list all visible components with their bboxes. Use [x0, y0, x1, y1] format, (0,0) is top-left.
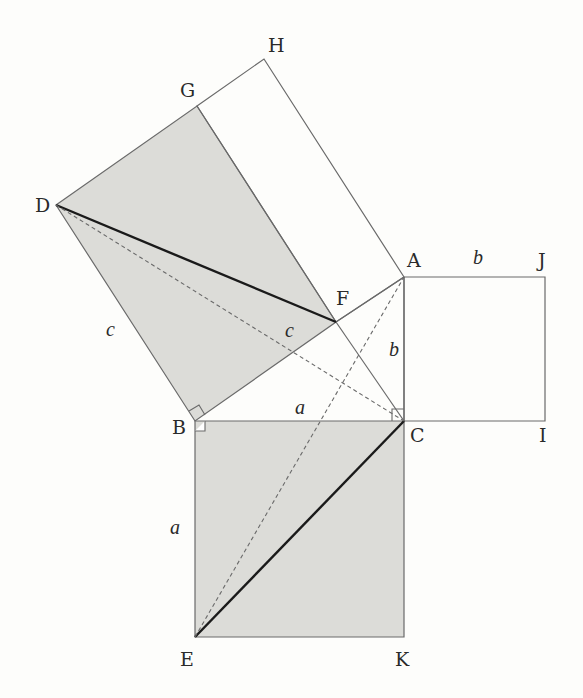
segment-fc	[336, 322, 404, 421]
side-label-c-inner: c	[285, 319, 294, 341]
square-acij	[404, 277, 545, 421]
label-e: E	[180, 648, 194, 670]
label-g: G	[180, 79, 195, 101]
side-label-b-left: b	[389, 338, 399, 360]
label-i: I	[539, 424, 547, 446]
label-d: D	[35, 194, 50, 216]
label-k: K	[395, 648, 410, 670]
label-f: F	[336, 287, 349, 309]
side-label-a-top: a	[295, 396, 305, 418]
side-label-c-outer: c	[106, 318, 115, 340]
label-a: A	[406, 249, 421, 271]
label-j: J	[536, 249, 546, 271]
label-h: H	[268, 34, 285, 56]
side-label-a-left: a	[170, 516, 180, 538]
label-c: C	[410, 424, 425, 446]
pythagorean-diagram: H G D A J F B C I E K b b c c a a	[0, 0, 583, 698]
label-b: B	[172, 416, 186, 438]
side-label-b-top: b	[473, 246, 483, 268]
